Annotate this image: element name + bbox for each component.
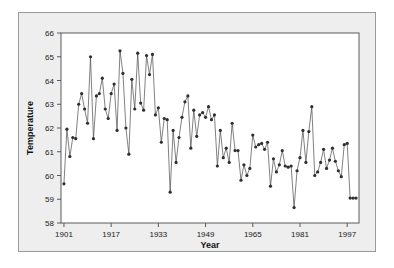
- data-point: [62, 182, 65, 185]
- data-point: [254, 145, 257, 148]
- data-point: [313, 174, 316, 177]
- data-point: [248, 167, 251, 170]
- data-point: [328, 158, 331, 161]
- data-point: [71, 136, 74, 139]
- y-tick-label: 58: [45, 219, 54, 228]
- x-axis-ticks: 1901191719331949196519811997: [55, 223, 357, 239]
- data-point: [298, 156, 301, 159]
- data-point: [172, 129, 175, 132]
- data-point: [198, 113, 201, 116]
- data-point: [98, 92, 101, 95]
- y-tick-label: 60: [45, 172, 54, 181]
- x-tick-label: 1901: [55, 230, 73, 239]
- data-point: [219, 129, 222, 132]
- data-point: [195, 135, 198, 138]
- data-point: [139, 101, 142, 104]
- data-point: [222, 156, 225, 159]
- data-point: [316, 170, 319, 173]
- data-point: [346, 142, 349, 145]
- temperature-time-series-chart: 585960616263646566 190119171933194919651…: [19, 13, 377, 253]
- data-point: [251, 134, 254, 137]
- x-tick-label: 1949: [197, 230, 215, 239]
- y-tick-label: 66: [45, 29, 54, 38]
- data-point: [290, 164, 293, 167]
- data-point: [104, 107, 107, 110]
- y-tick-label: 61: [45, 148, 54, 157]
- data-point: [272, 157, 275, 160]
- y-tick-label: 64: [45, 77, 54, 86]
- data-point: [136, 52, 139, 55]
- data-point: [186, 94, 189, 97]
- data-point: [340, 175, 343, 178]
- data-point: [83, 107, 86, 110]
- data-point: [269, 185, 272, 188]
- data-point: [110, 92, 113, 95]
- data-point: [157, 106, 160, 109]
- data-point: [334, 160, 337, 163]
- data-point: [166, 118, 169, 121]
- data-point: [130, 78, 133, 81]
- data-point: [154, 113, 157, 116]
- data-point: [231, 122, 234, 125]
- data-point: [65, 128, 68, 131]
- data-point: [225, 147, 228, 150]
- data-point: [349, 196, 352, 199]
- x-tick-label: 1917: [102, 230, 120, 239]
- data-point: [213, 113, 216, 116]
- y-axis-ticks: 585960616263646566: [45, 29, 61, 228]
- x-tick-label: 1965: [244, 230, 262, 239]
- data-point: [331, 147, 334, 150]
- data-point: [325, 167, 328, 170]
- data-point: [118, 49, 121, 52]
- data-point: [127, 153, 130, 156]
- chart-figure: 585960616263646566 190119171933194919651…: [0, 0, 394, 268]
- data-point: [207, 105, 210, 108]
- x-tick-label: 1981: [291, 230, 309, 239]
- y-tick-label: 65: [45, 53, 54, 62]
- data-point: [343, 143, 346, 146]
- data-point: [257, 143, 260, 146]
- data-point: [92, 137, 95, 140]
- data-point: [275, 170, 278, 173]
- y-axis-title: Temperature: [25, 101, 35, 155]
- x-axis-title: Year: [200, 240, 220, 250]
- data-point: [310, 105, 313, 108]
- data-point: [245, 174, 248, 177]
- data-point: [142, 109, 145, 112]
- data-point: [278, 163, 281, 166]
- data-point: [80, 92, 83, 95]
- x-tick-label: 1997: [338, 230, 356, 239]
- y-tick-label: 63: [45, 100, 54, 109]
- x-tick-label: 1933: [149, 230, 167, 239]
- data-point: [204, 116, 207, 119]
- data-point: [295, 169, 298, 172]
- data-point: [189, 147, 192, 150]
- data-point: [242, 163, 245, 166]
- data-point: [319, 161, 322, 164]
- data-point: [86, 122, 89, 125]
- data-point: [95, 94, 98, 97]
- data-point: [201, 111, 204, 114]
- data-point: [68, 155, 71, 158]
- data-point: [101, 77, 104, 80]
- data-point: [174, 161, 177, 164]
- chart-panel: 585960616263646566 190119171933194919651…: [18, 12, 376, 252]
- y-tick-label: 59: [45, 195, 54, 204]
- data-point: [124, 126, 127, 129]
- data-point: [287, 166, 290, 169]
- data-point: [266, 141, 269, 144]
- plot-background: [61, 33, 359, 223]
- plot-frame: [61, 33, 359, 223]
- data-point: [183, 100, 186, 103]
- data-point: [216, 164, 219, 167]
- data-point: [107, 117, 110, 120]
- data-point: [113, 82, 116, 85]
- data-point: [260, 142, 263, 145]
- data-point: [284, 164, 287, 167]
- data-point: [133, 107, 136, 110]
- data-point: [180, 116, 183, 119]
- data-point: [352, 196, 355, 199]
- data-point: [337, 169, 340, 172]
- data-point: [192, 109, 195, 112]
- data-point: [281, 149, 284, 152]
